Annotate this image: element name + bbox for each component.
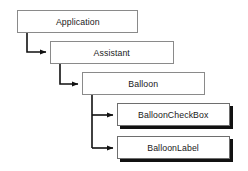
node-application[interactable]: Application bbox=[17, 10, 138, 33]
node-balloon-check-box[interactable]: BalloonCheckBox bbox=[117, 103, 230, 126]
node-assistant-label: Assistant bbox=[94, 48, 130, 58]
node-assistant[interactable]: Assistant bbox=[50, 41, 174, 64]
node-balloon-check-box-label: BalloonCheckBox bbox=[138, 110, 208, 120]
connector-application-to-assistant bbox=[27, 33, 46, 52]
node-balloon-label[interactable]: BalloonLabel bbox=[117, 136, 230, 159]
node-balloon-label: Balloon bbox=[129, 79, 159, 89]
node-balloon[interactable]: Balloon bbox=[82, 72, 205, 95]
node-balloon-label-label: BalloonLabel bbox=[148, 143, 200, 153]
object-hierarchy-diagram: Application Assistant Balloon BalloonChe… bbox=[0, 0, 248, 171]
connector-assistant-to-balloon bbox=[60, 64, 78, 84]
node-application-label: Application bbox=[56, 17, 100, 27]
